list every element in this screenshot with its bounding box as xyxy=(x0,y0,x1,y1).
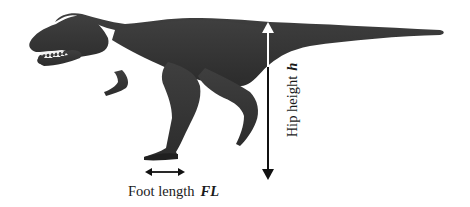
foot-length-arrow xyxy=(145,168,185,176)
hip-height-label: Hip heighth xyxy=(284,63,301,138)
foot-length-text: Foot length xyxy=(128,183,194,199)
foot-length-symbol: FL xyxy=(200,183,219,199)
trex-hip-foot-diagram xyxy=(0,0,470,207)
foot-length-label: Foot lengthFL xyxy=(128,183,219,200)
hip-height-text: Hip height xyxy=(284,76,300,138)
hip-height-symbol: h xyxy=(284,63,300,71)
trex-silhouette xyxy=(29,13,444,160)
